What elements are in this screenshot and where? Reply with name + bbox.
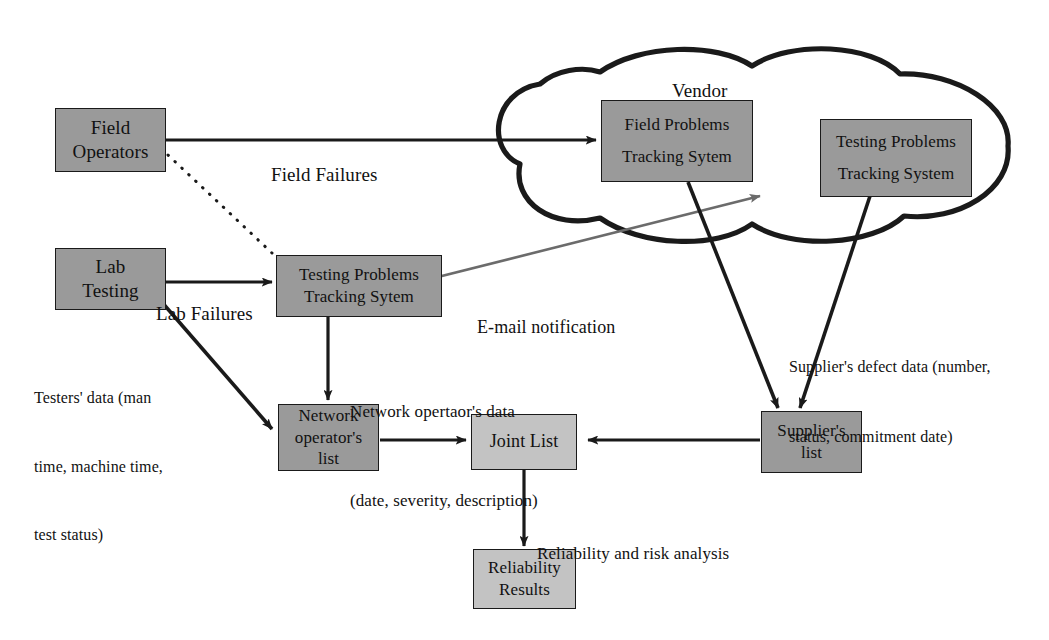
node-line: Tracking Sytem (304, 286, 414, 308)
node-line: Operators (73, 140, 149, 164)
node-testing-problems-tracking-system-vendor[interactable]: Testing Problems Tracking System (820, 119, 972, 197)
node-line: Testing Problems (836, 126, 956, 158)
diagram-canvas: Field Operators Lab Testing Testing Prob… (0, 0, 1049, 640)
node-line: Testing (82, 279, 138, 303)
label-vendor: Vendor (672, 30, 727, 153)
label-network-operator-data: Network opertaor's data (date, severity,… (350, 337, 538, 575)
node-testing-problems-tracking-system-local[interactable]: Testing Problems Tracking Sytem (276, 255, 442, 317)
node-line: Testing Problems (299, 264, 419, 286)
label-field-failures: Field Failures (271, 114, 377, 237)
label-testers-data: Testers' data (man time, machine time, t… (34, 342, 163, 592)
node-line: Field (91, 116, 131, 140)
node-line: list (318, 448, 339, 470)
label-suppliers-defect-data: Supplier's defect data (number, status, … (789, 309, 991, 495)
edge-field-problems-to-suppliers (688, 182, 778, 408)
node-lab-testing[interactable]: Lab Testing (55, 248, 166, 310)
node-line: Lab (96, 255, 126, 279)
node-field-operators[interactable]: Field Operators (55, 108, 166, 172)
label-reliability-risk-analysis: Reliability and risk analysis (537, 499, 729, 609)
node-line: Tracking System (838, 158, 955, 190)
edge-field-operators-dotted (168, 155, 272, 253)
label-lab-failures: Lab Failures (156, 253, 253, 376)
